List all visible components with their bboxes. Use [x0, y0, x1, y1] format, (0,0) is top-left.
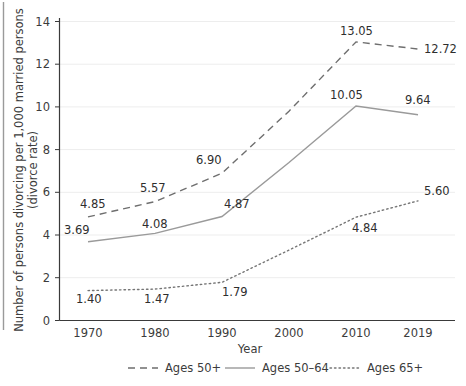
- y-tick-label-2: 2: [43, 271, 50, 285]
- data-label-ages50plus-2010: 13.05: [340, 24, 373, 38]
- y-tick-label-12: 12: [35, 57, 50, 71]
- x-tick-label-1990: 1990: [207, 326, 236, 340]
- data-label-ages65plus-1980: 1.47: [144, 292, 170, 306]
- y-tick-label-14: 14: [35, 15, 50, 29]
- data-label-ages5064-1980: 4.08: [142, 217, 168, 231]
- y-tick-label-0: 0: [43, 314, 50, 328]
- x-axis-title: Year: [237, 342, 263, 356]
- y-tick-label-4: 4: [43, 228, 50, 242]
- legend-item-ages-50-64[interactable]: Ages 50–64: [225, 361, 329, 375]
- divorce-rate-line-chart: 14 12 10 8 6 4 2 0 Number of persons div…: [0, 0, 466, 386]
- x-tick-label-1980: 1980: [140, 326, 169, 340]
- data-label-ages65plus-2019: 5.60: [424, 184, 450, 198]
- legend-item-ages-65-plus[interactable]: Ages 65+: [330, 361, 423, 375]
- legend-label-ages-50-plus: Ages 50+: [165, 361, 221, 375]
- y-tick-label-6: 6: [43, 185, 50, 199]
- series-line-ages-65-plus: [88, 201, 418, 291]
- data-label-ages5064-1970: 3.69: [64, 223, 90, 237]
- y-tick-label-8: 8: [43, 143, 50, 157]
- data-label-ages50plus-1980: 5.57: [140, 181, 166, 195]
- data-label-ages50plus-1990: 6.90: [196, 153, 222, 167]
- data-label-ages65plus-1970: 1.40: [76, 292, 102, 306]
- legend-item-ages-50-plus[interactable]: Ages 50+: [128, 361, 221, 375]
- data-label-ages5064-2010: 10.05: [330, 88, 363, 102]
- x-tick-label-1970: 1970: [73, 326, 102, 340]
- data-label-ages65plus-2010: 4.84: [352, 221, 378, 235]
- y-gridlines: [60, 22, 455, 278]
- x-tick-label-2019: 2019: [403, 326, 432, 340]
- data-label-ages65plus-1990: 1.79: [222, 285, 248, 299]
- legend: Ages 50+ Ages 50–64 Ages 65+: [128, 361, 423, 375]
- data-label-ages5064-2019: 9.64: [405, 93, 431, 107]
- x-tick-label-2010: 2010: [341, 326, 370, 340]
- data-label-ages5064-1990: 4.87: [224, 197, 250, 211]
- legend-label-ages-50-64: Ages 50–64: [262, 361, 329, 375]
- data-label-ages50plus-2019: 12.72: [424, 42, 457, 56]
- legend-label-ages-65-plus: Ages 65+: [367, 361, 423, 375]
- y-axis-title-line1: Number of persons divorcing per 1,000 ma…: [12, 8, 26, 332]
- y-tick-marks: [55, 22, 60, 321]
- x-tick-label-2000: 2000: [274, 326, 303, 340]
- data-label-ages50plus-1970: 4.85: [80, 197, 106, 211]
- y-axis-title-line2: (divorce rate): [26, 131, 40, 209]
- y-tick-label-10: 10: [35, 100, 50, 114]
